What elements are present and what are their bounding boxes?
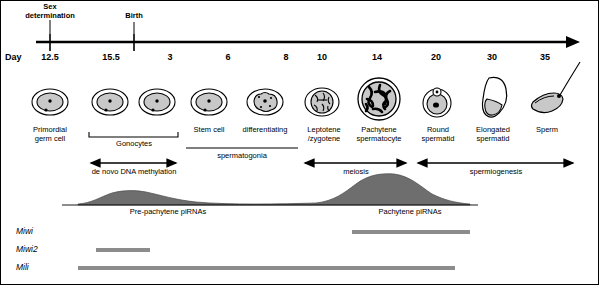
- cell-elongated-spermatid: [482, 77, 506, 117]
- event-label-sex-determination: Sex determination: [0, 3, 100, 20]
- tick-label-3: 3: [150, 52, 190, 62]
- process-label-meiosis: meiosis: [326, 167, 386, 176]
- cell-primordial-germ-cell: [32, 89, 68, 115]
- cell-label-pachytene-spermatocyte: Pachytene spermatocyte: [342, 126, 416, 143]
- pirna-label-pre-pachytene: Pre-pachytene piRNAs: [113, 207, 223, 216]
- cell-label-elongated-spermatid: Elongated spermatid: [462, 126, 524, 143]
- tick-label-14: 14: [357, 52, 397, 62]
- cell-label-primordial-germ-cell: Primordial germ cell: [14, 126, 86, 143]
- cell-differentiating-spermatogonium: [247, 89, 283, 115]
- timeline-axis: [36, 34, 580, 51]
- event-leaders: [50, 20, 134, 34]
- process-label-spermiogenesis: spermiogenesis: [456, 167, 536, 176]
- axis-arrowhead: [566, 36, 580, 48]
- tick-label-8: 8: [266, 52, 306, 62]
- tick-label-10: 10: [302, 52, 342, 62]
- gene-bar-miwi: [352, 230, 470, 234]
- tick-label-12-5: 12.5: [30, 52, 70, 62]
- gene-label-miwi: Miwi: [16, 226, 33, 236]
- gonocytes-bracket: [89, 132, 178, 137]
- gene-bar-mili: [78, 266, 455, 270]
- gene-bar-miwi2: [96, 248, 150, 252]
- cell-label-round-spermatid: Round spermatid: [409, 126, 467, 143]
- pirna-curve-area: [62, 174, 478, 205]
- process-label-de-novo-dna-methylation: de novo DNA methylation: [74, 167, 194, 176]
- tick-label-20: 20: [416, 52, 456, 62]
- cell-label-differentiating: differentiating: [231, 126, 299, 135]
- gene-label-mili: Mili: [16, 262, 29, 272]
- cell-label-stem-cell: Stem cell: [179, 126, 239, 135]
- tick-label-6: 6: [208, 52, 248, 62]
- group-label-spermatogonia: spermatogonia: [207, 151, 277, 160]
- cell-label-sperm: Sperm: [524, 126, 570, 135]
- cell-pachytene-spermatocyte: [358, 78, 400, 120]
- cell-gonocyte-2: [139, 89, 175, 115]
- tick-label-15-5: 15.5: [91, 52, 131, 62]
- tick-label-35: 35: [525, 52, 565, 62]
- gene-label-miwi2: Miwi2: [16, 244, 38, 254]
- group-label-gonocytes: Gonocytes: [104, 139, 164, 148]
- cell-round-spermatid: [423, 88, 451, 117]
- cell-stem-cell: [191, 89, 227, 115]
- cell-gonocyte-1: [92, 89, 128, 115]
- event-label-birth: Birth: [104, 12, 164, 21]
- tick-label-30: 30: [472, 52, 512, 62]
- pirna-label-pachytene: Pachytene piRNAs: [365, 207, 455, 216]
- day-axis-label: Day: [5, 52, 22, 62]
- cell-leptotene-zygotene: [305, 88, 339, 116]
- cell-sperm: [532, 62, 581, 113]
